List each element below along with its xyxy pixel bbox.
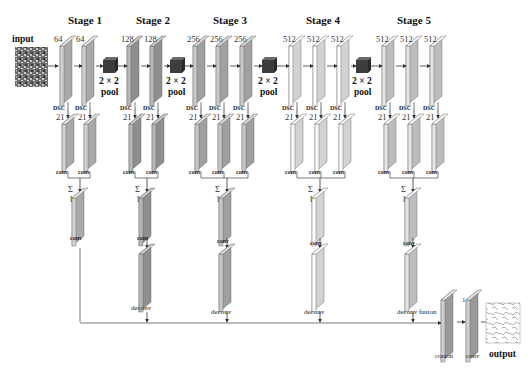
conv-label: conv [378, 169, 390, 175]
conv-label: conv [285, 169, 297, 175]
conv-label: conv [189, 169, 201, 175]
stage-4-conv-3 [337, 36, 353, 106]
stage-2-title: Stage 2 [136, 14, 170, 26]
dsc-channels: 21 [285, 112, 294, 122]
dsc-label: DSC [120, 105, 132, 111]
channel-label: 256 [187, 34, 200, 44]
dsc-label: DSC [330, 105, 342, 111]
dsc-label: DSC [375, 105, 387, 111]
stage-2-deconv-block [139, 244, 155, 312]
conv-label: conv [146, 169, 158, 175]
stage-5-deconv-block [405, 244, 421, 312]
final-conv-channels: 1 [462, 296, 466, 304]
stage-4-dsc-block-3 [339, 114, 355, 172]
stage-1-title: Stage 1 [68, 14, 102, 26]
stage-1-conv-2 [82, 36, 98, 106]
sum-symbol: Σ [215, 184, 220, 194]
svg-text:2 × 2: 2 × 2 [258, 76, 278, 86]
sum-symbol: Σ [401, 184, 406, 194]
dsc-channels: 21 [378, 112, 387, 122]
dsc-label: DSC [306, 105, 318, 111]
stage-3-deconv-block [219, 244, 235, 312]
stage-5-conv-3 [430, 36, 446, 106]
dsc-channels: 21 [123, 112, 132, 122]
stage-4-title: Stage 4 [306, 14, 340, 26]
sum-symbol: Σ [68, 184, 73, 194]
conv-label: conv [402, 169, 414, 175]
dsc-label: DSC [186, 105, 198, 111]
conv-label: conv [236, 169, 248, 175]
stage-4-conv-2 [313, 36, 329, 106]
dsc-channels: 21 [402, 112, 411, 122]
channel-label: 256 [210, 34, 223, 44]
stage-4-deconv-block [312, 244, 328, 312]
deconv-label: deconv [304, 308, 325, 316]
stage-5-dsc-block-3 [432, 114, 448, 172]
dsc-channels: 21 [189, 112, 198, 122]
dsc-label: DSC [399, 105, 411, 111]
channel-label: 512 [307, 34, 320, 44]
pool-block: 2 × 2pool [99, 57, 119, 97]
dsc-channels: 21 [236, 112, 245, 122]
conv-label: conv [426, 169, 438, 175]
concat-label: concat [435, 352, 453, 360]
stage-2-conv-1 [127, 36, 143, 106]
svg-text:2 × 2: 2 × 2 [99, 76, 119, 86]
channel-label: 512 [376, 34, 389, 44]
stage-5-dsc-block-2 [408, 114, 424, 172]
dsc-channels: 21 [426, 112, 435, 122]
stage-5-conv-1 [382, 36, 398, 106]
channel-label: 128 [144, 34, 157, 44]
stage-3-conv-3 [240, 36, 256, 106]
dsc-channels: 21 [309, 112, 318, 122]
dsc-channels: 21 [146, 112, 155, 122]
svg-text:pool: pool [168, 87, 186, 97]
stage-2-conv-2 [150, 36, 166, 106]
dsc-label: DSC [209, 105, 221, 111]
conv-label: conv [56, 169, 68, 175]
conv-label: conv [123, 169, 135, 175]
pool-block: 2 × 2pool [166, 57, 186, 97]
stage-1-conv-1 [60, 36, 76, 106]
channel-label: 512 [400, 34, 413, 44]
fusion-label: fusion [419, 308, 437, 316]
channel-label: 512 [331, 34, 344, 44]
conv-label: conv [212, 169, 224, 175]
stage-5-title: Stage 5 [397, 14, 431, 26]
layer-blocks: 64DSC21conv64DSC21convΣ1conv128DSC21conv… [53, 34, 448, 322]
dsc-label: DSC [233, 105, 245, 111]
channel-label: 64 [76, 34, 85, 44]
output-label: output [489, 349, 517, 359]
channel-label: 512 [283, 34, 296, 44]
svg-text:pool: pool [101, 87, 119, 97]
stage-4-dsc-block-1 [291, 114, 307, 172]
pool-block: 2 × 2pool [352, 57, 372, 97]
stage-1-dsc-block-1 [62, 114, 78, 172]
stage-5-sum-block [405, 188, 421, 246]
stage-5-dsc-block-1 [384, 114, 400, 172]
stage-3-dsc-block-2 [218, 114, 234, 172]
output-image [486, 303, 520, 343]
stage-3-title: Stage 3 [213, 14, 247, 26]
svg-text:pool: pool [260, 87, 278, 97]
svg-text:2 × 2: 2 × 2 [352, 76, 372, 86]
channel-label: 128 [121, 34, 134, 44]
pool-block: 2 × 2pool [258, 57, 278, 97]
stage-4-conv-1 [289, 36, 305, 106]
dsc-channels: 21 [212, 112, 221, 122]
final-conv-label: conv [466, 352, 480, 360]
architecture-diagram: Stage 1 Stage 2 Stage 3 Stage 4 Stage 5 … [0, 0, 532, 371]
dsc-label: DSC [282, 105, 294, 111]
sum-symbol: Σ [308, 184, 313, 194]
dsc-label: DSC [53, 105, 65, 111]
channel-label: 512 [424, 34, 437, 44]
stage-2-dsc-block-2 [152, 114, 168, 172]
stage-3-dsc-block-3 [242, 114, 258, 172]
dsc-channels: 21 [56, 112, 65, 122]
deconv-label: deconv [397, 308, 418, 316]
stage-4-sum-block [312, 188, 328, 246]
dsc-channels: 21 [78, 112, 87, 122]
dsc-channels: 21 [333, 112, 342, 122]
sum-symbol: Σ [135, 184, 140, 194]
stage-3-conv-1 [193, 36, 209, 106]
